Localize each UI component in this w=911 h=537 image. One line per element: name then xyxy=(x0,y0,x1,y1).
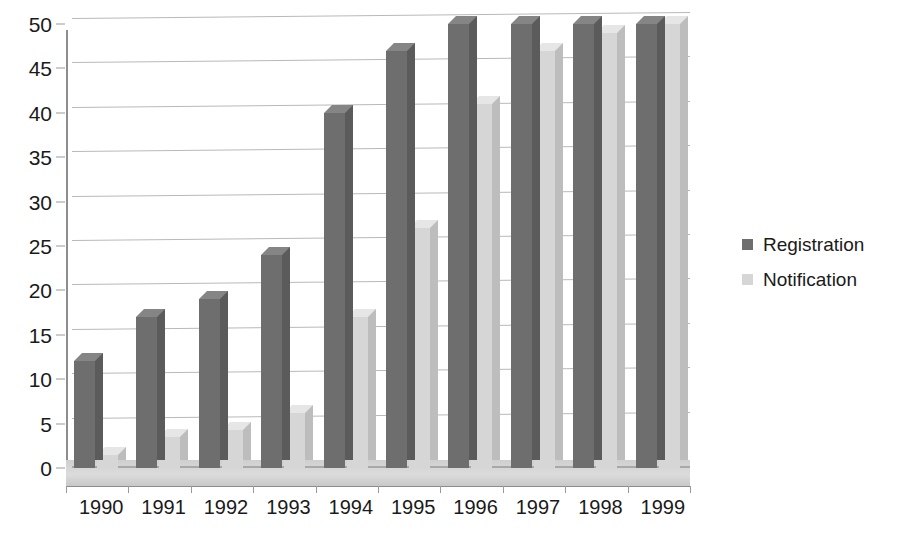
bar-registration-1997 xyxy=(511,24,532,468)
y-axis-tick-label: 0 xyxy=(8,458,52,479)
x-axis-tick-label: 1998 xyxy=(578,497,623,517)
bar-side-3d xyxy=(282,247,290,460)
bar-registration-1992 xyxy=(199,299,220,468)
legend-item-notification[interactable]: Notification xyxy=(742,268,907,290)
x-axis-tick-label: 1995 xyxy=(391,497,436,517)
bar-registration-1995 xyxy=(386,51,407,468)
legend-label: Registration xyxy=(763,235,864,254)
y-axis-tick-mark xyxy=(56,157,65,158)
bar-registration-1994 xyxy=(324,113,345,468)
x-axis-tick-mark xyxy=(378,486,379,493)
bar-registration-1993 xyxy=(261,255,282,468)
y-axis-tick-mark xyxy=(56,334,65,335)
bar-face xyxy=(324,113,345,468)
bar-side-3d xyxy=(469,16,477,460)
plot-area xyxy=(66,24,690,486)
bar-group xyxy=(446,24,508,468)
bar-side-3d xyxy=(532,16,540,460)
y-axis-tick-mark xyxy=(56,290,65,291)
legend-swatch-icon xyxy=(742,239,753,250)
bar-group xyxy=(571,24,633,468)
bar-side-3d xyxy=(368,309,376,460)
bar-face xyxy=(136,317,157,468)
bar-face xyxy=(636,24,657,468)
x-axis-tick-label: 1991 xyxy=(141,497,186,517)
bar-face xyxy=(199,299,220,468)
bar-side-3d xyxy=(345,105,353,460)
y-axis-tick-mark xyxy=(56,468,65,469)
x-axis-tick-label: 1992 xyxy=(204,497,249,517)
bar-chart: 05101520253035404550 1990199119921993199… xyxy=(0,0,911,537)
y-axis-tick-mark xyxy=(56,201,65,202)
bar-side-3d xyxy=(95,353,103,460)
x-axis-tick-label: 1993 xyxy=(266,497,311,517)
y-axis-tick-mark xyxy=(56,112,65,113)
y-axis-tick-label: 20 xyxy=(8,280,52,301)
bar-series-container xyxy=(66,24,690,486)
bar-registration-1996 xyxy=(448,24,469,468)
y-axis-tick-label: 15 xyxy=(8,324,52,345)
y-axis-tick-label: 5 xyxy=(8,413,52,434)
bar-group xyxy=(634,24,696,468)
bar-registration-1998 xyxy=(573,24,594,468)
x-axis-tick-mark xyxy=(503,486,504,493)
bar-group xyxy=(509,24,571,468)
bar-registration-1991 xyxy=(136,317,157,468)
y-axis-tick-label: 10 xyxy=(8,369,52,390)
bar-side-3d xyxy=(492,96,500,460)
bar-group xyxy=(134,24,196,468)
x-axis-tick-mark xyxy=(440,486,441,493)
bar-group xyxy=(197,24,259,468)
x-axis-tick-mark xyxy=(253,486,254,493)
x-axis-tick-mark xyxy=(628,486,629,493)
bar-group xyxy=(384,24,446,468)
y-axis-tick-label: 50 xyxy=(8,14,52,35)
bar-side-3d xyxy=(617,25,625,460)
x-axis-tick-mark xyxy=(191,486,192,493)
bar-face xyxy=(511,24,532,468)
bar-side-3d xyxy=(407,43,415,460)
y-axis-tick-label: 40 xyxy=(8,102,52,123)
bar-group xyxy=(322,24,384,468)
bar-face xyxy=(448,24,469,468)
y-axis: 05101520253035404550 xyxy=(0,0,52,537)
bar-face xyxy=(261,255,282,468)
legend-item-registration[interactable]: Registration xyxy=(742,233,907,255)
x-axis-tick-mark xyxy=(316,486,317,493)
bar-registration-1999 xyxy=(636,24,657,468)
y-axis-tick-mark xyxy=(56,68,65,69)
x-axis-tick-mark xyxy=(128,486,129,493)
chart-legend: RegistrationNotification xyxy=(742,233,907,303)
x-axis-tick-label: 1990 xyxy=(79,497,124,517)
x-axis-tick-label: 1996 xyxy=(453,497,498,517)
x-axis-tick-label: 1997 xyxy=(516,497,561,517)
bar-side-3d xyxy=(555,43,563,460)
bar-side-3d xyxy=(594,16,602,460)
bar-side-3d xyxy=(680,16,688,460)
y-axis-tick-mark xyxy=(56,379,65,380)
legend-label: Notification xyxy=(763,270,857,289)
bar-face xyxy=(74,361,95,468)
bar-side-3d xyxy=(305,405,313,460)
x-axis-tick-label: 1994 xyxy=(329,497,374,517)
y-axis-tick-label: 30 xyxy=(8,191,52,212)
y-axis-tick-mark xyxy=(56,246,65,247)
bar-group xyxy=(72,24,134,468)
x-axis-tick-label: 1999 xyxy=(641,497,686,517)
y-axis-tick-label: 45 xyxy=(8,58,52,79)
x-axis-tick-mark xyxy=(690,486,691,493)
x-axis-tick-mark xyxy=(565,486,566,493)
bar-side-3d xyxy=(430,220,438,460)
x-axis-tick-mark xyxy=(66,486,67,493)
bar-face xyxy=(573,24,594,468)
y-axis-tick-mark xyxy=(56,24,65,25)
y-axis-tick-label: 25 xyxy=(8,236,52,257)
bar-registration-1990 xyxy=(74,361,95,468)
y-axis-tick-label: 35 xyxy=(8,147,52,168)
x-axis: 1990199119921993199419951996199719981999 xyxy=(66,486,690,526)
bar-side-3d xyxy=(157,309,165,460)
bar-side-3d xyxy=(220,291,228,460)
y-axis-tick-mark xyxy=(56,423,65,424)
bar-face xyxy=(386,51,407,468)
bar-group xyxy=(259,24,321,468)
